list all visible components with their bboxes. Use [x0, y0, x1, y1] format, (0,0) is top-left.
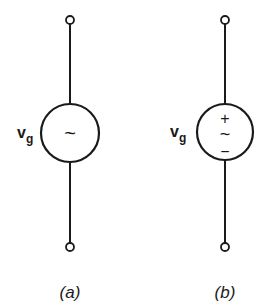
top-terminal-b [221, 16, 229, 24]
voltage-label-b: vg [170, 123, 186, 145]
sine-symbol-a: ~ [64, 122, 76, 144]
minus-sign-b: − [220, 143, 229, 160]
ac-source-a: ~ vg (a) [17, 16, 99, 302]
caption-a: (a) [60, 283, 81, 302]
sine-symbol-b: ~ [220, 124, 231, 144]
top-terminal-a [66, 16, 74, 24]
caption-b: (b) [215, 283, 236, 302]
circuit-diagram: ~ vg (a) + ~ − vg (b) [0, 0, 268, 308]
bottom-terminal-a [66, 243, 74, 251]
bottom-terminal-b [221, 243, 229, 251]
ac-source-b: + ~ − vg (b) [170, 16, 253, 302]
voltage-label-a: vg [17, 124, 33, 146]
